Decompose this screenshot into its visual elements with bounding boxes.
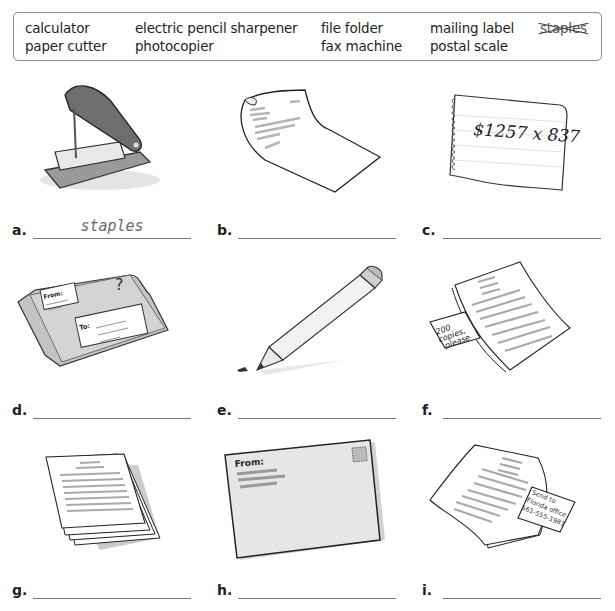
document-note-icon: 200 copies, please bbox=[410, 250, 615, 400]
item-letter: e. bbox=[217, 402, 232, 418]
notepad-calculation-icon: $1257 x 837 bbox=[410, 70, 615, 220]
curled-letter-icon bbox=[205, 70, 410, 220]
answer-line bbox=[33, 418, 191, 419]
item-b: b. bbox=[205, 70, 410, 250]
item-a: a. staples bbox=[0, 70, 205, 250]
word-staples-crossed: staples bbox=[540, 20, 587, 36]
word-bank: calculator electric pencil sharpener fil… bbox=[13, 12, 602, 61]
answer-text[interactable]: staples bbox=[33, 217, 191, 235]
word-file-folder: file folder bbox=[321, 20, 383, 36]
answer-line bbox=[238, 238, 396, 239]
answer-line bbox=[443, 238, 601, 239]
item-g: g. bbox=[0, 430, 205, 610]
word-mailing-label: mailing label bbox=[430, 20, 514, 36]
question-mark: ? bbox=[115, 275, 124, 294]
answer-line bbox=[443, 598, 601, 599]
item-d: From: To: ? d. bbox=[0, 250, 205, 430]
item-letter: d. bbox=[12, 402, 27, 418]
word-postal-scale: postal scale bbox=[430, 38, 508, 54]
word-fax-machine: fax machine bbox=[321, 38, 402, 54]
item-letter: g. bbox=[12, 582, 27, 598]
package-icon: From: To: ? bbox=[0, 250, 205, 400]
item-letter: b. bbox=[217, 222, 232, 238]
answer-line bbox=[33, 598, 191, 599]
item-h: From: h. bbox=[205, 430, 410, 610]
answer-line bbox=[443, 418, 601, 419]
stapler-remover-icon bbox=[0, 70, 205, 220]
answer-line bbox=[238, 418, 396, 419]
pencil-icon bbox=[205, 250, 410, 400]
answer-line bbox=[33, 238, 191, 239]
item-letter: f. bbox=[422, 402, 433, 418]
item-f: 200 copies, please f. bbox=[410, 250, 615, 430]
item-letter: h. bbox=[217, 582, 232, 598]
item-letter: c. bbox=[422, 222, 436, 238]
item-e: e. bbox=[205, 250, 410, 430]
answer-line bbox=[238, 598, 396, 599]
item-letter: i. bbox=[422, 582, 432, 598]
envelope-icon: From: bbox=[205, 430, 410, 580]
document-fax-note-icon: Send to Florida office 561-555-1981 bbox=[410, 430, 615, 580]
word-electric-pencil-sharpener: electric pencil sharpener bbox=[135, 20, 297, 36]
word-photocopier: photocopier bbox=[135, 38, 214, 54]
paper-stack-icon bbox=[0, 430, 205, 580]
item-i: Send to Florida office 561-555-1981 i. bbox=[410, 430, 615, 610]
word-calculator: calculator bbox=[25, 20, 90, 36]
item-letter: a. bbox=[12, 222, 27, 238]
word-paper-cutter: paper cutter bbox=[25, 38, 107, 54]
item-c: $1257 x 837 c. bbox=[410, 70, 615, 250]
